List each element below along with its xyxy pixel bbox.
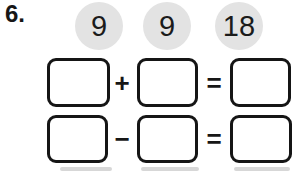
next-problem-box-hint xyxy=(141,167,199,171)
next-problem-box-hint xyxy=(60,167,112,171)
equals-sign: = xyxy=(200,115,228,163)
number-bank-circle: 9 xyxy=(143,2,191,50)
plus-operator: + xyxy=(108,58,136,107)
next-problem-box-hint xyxy=(234,167,290,171)
worksheet-problem: 6. 9 9 18 + = − = xyxy=(0,0,301,175)
number-bank-value: 9 xyxy=(91,12,107,41)
number-bank-circle: 9 xyxy=(75,2,123,50)
minuend-answer-box[interactable] xyxy=(47,115,108,163)
number-bank-value: 18 xyxy=(223,12,255,41)
subtrahend-answer-box[interactable] xyxy=(137,115,198,163)
number-bank-value: 9 xyxy=(159,12,175,41)
equals-sign: = xyxy=(200,58,228,107)
addend2-answer-box[interactable] xyxy=(137,58,198,107)
minus-operator: − xyxy=(108,115,136,163)
problem-number: 6. xyxy=(5,0,25,28)
sum-answer-box[interactable] xyxy=(230,58,291,107)
addend1-answer-box[interactable] xyxy=(47,58,110,107)
number-bank-circle: 18 xyxy=(215,2,263,50)
difference-answer-box[interactable] xyxy=(230,115,292,163)
